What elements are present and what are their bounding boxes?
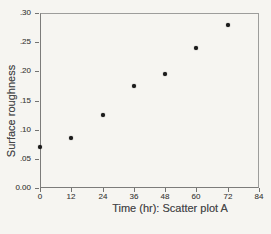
y-tick-mark	[35, 101, 39, 102]
x-tick-label: 48	[161, 193, 170, 201]
x-tick-label: 84	[255, 193, 264, 201]
scatter-plot-figure: 0.00.05.10.15.20.25.30 012243648607284 S…	[0, 0, 271, 234]
x-tick-label: 24	[99, 193, 108, 201]
y-tick-label: .30	[0, 9, 31, 17]
data-point	[132, 84, 136, 88]
y-tick-mark	[35, 42, 39, 43]
y-tick-label: .25	[0, 38, 31, 46]
y-tick-mark	[35, 159, 39, 160]
x-tick-label: 12	[67, 193, 76, 201]
x-tick-label: 36	[130, 193, 139, 201]
x-tick-label: 72	[224, 193, 233, 201]
x-tick-label: 60	[192, 193, 201, 201]
y-tick-mark	[35, 130, 39, 131]
data-point	[226, 23, 230, 27]
y-tick-mark	[35, 188, 39, 189]
x-axis-label: Time (hr): Scatter plot A	[112, 202, 228, 214]
y-tick-label: 0.00	[0, 184, 31, 192]
y-tick-mark	[35, 13, 39, 14]
y-tick-mark	[35, 71, 39, 72]
y-axis-label: Surface roughness	[5, 65, 17, 157]
data-point	[101, 113, 105, 117]
x-tick-label: 0	[38, 193, 42, 201]
plot-frame	[40, 13, 259, 188]
